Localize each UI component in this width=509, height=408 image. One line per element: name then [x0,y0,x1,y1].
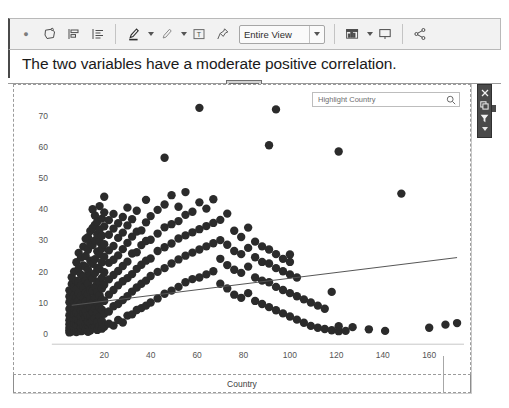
scatter-point[interactable] [251,237,259,245]
present-icon[interactable] [375,22,395,46]
pen-caret-icon[interactable] [181,32,187,36]
scatter-point[interactable] [251,253,259,261]
pen-icon[interactable] [156,22,176,46]
scatter-point[interactable] [146,254,154,262]
scatter-point[interactable] [167,259,175,267]
scatter-point[interactable] [109,242,117,250]
scatter-point[interactable] [441,320,449,328]
scatter-point[interactable] [397,189,405,197]
scatter-point[interactable] [195,104,203,112]
scatter-point[interactable] [381,327,389,335]
scatter-point[interactable] [146,272,154,280]
chart-caret-icon[interactable] [367,32,373,36]
scatter-point[interactable] [265,141,273,149]
scatter-point[interactable] [188,275,196,283]
chevron-down-icon[interactable] [482,127,488,131]
scatter-point[interactable] [244,289,252,297]
scatter-point[interactable] [174,203,182,211]
scatter-point[interactable] [167,239,175,247]
scatter-point[interactable] [100,193,108,201]
annotate-shape-icon[interactable] [40,22,60,46]
overflow-dot-icon[interactable]: ● [16,22,36,46]
scatter-points[interactable] [65,104,461,337]
align-text-icon[interactable] [88,22,108,46]
scatter-point[interactable] [146,298,154,306]
scatter-point[interactable] [244,223,252,231]
scatter-point[interactable] [119,213,127,221]
scatter-point[interactable] [133,207,141,215]
scatter-point[interactable] [348,323,356,331]
search-input[interactable] [313,92,443,107]
scatter-point[interactable] [453,319,461,327]
text-box-icon[interactable]: T [189,22,209,46]
scatter-point[interactable] [181,188,189,196]
scatter-point[interactable] [119,318,127,326]
scatter-point[interactable] [153,206,161,214]
scatter-point[interactable] [188,208,196,216]
close-icon[interactable] [478,86,491,99]
filter-funnel-icon[interactable] [478,112,491,125]
share-icon[interactable] [410,22,430,46]
view-scope-select[interactable]: Entire View [239,25,325,44]
scatter-point[interactable] [334,147,342,155]
scatter-point[interactable] [328,288,336,296]
highlight-country-search[interactable] [312,92,460,107]
scatter-point[interactable] [223,209,231,217]
search-icon[interactable] [443,95,459,105]
scatter-point[interactable] [334,322,342,330]
scatter-point[interactable] [244,244,252,252]
highlighter-caret-icon[interactable] [148,32,154,36]
scatter-point[interactable] [286,250,294,258]
scatter-point[interactable] [133,248,141,256]
scatter-point[interactable] [142,196,150,204]
scatter-point[interactable] [244,262,252,270]
align-left-icon[interactable] [64,22,84,46]
scatter-point[interactable] [258,258,266,266]
scatter-point[interactable] [265,259,273,267]
scatter-point[interactable] [272,105,280,113]
scatter-point[interactable] [265,278,273,286]
view-scope-caret-icon[interactable] [314,32,320,36]
scatter-point[interactable] [153,229,161,237]
scatter-point[interactable] [100,208,108,216]
scatter-point[interactable] [272,250,280,258]
scatter-point[interactable] [174,217,182,225]
scatter-point[interactable] [209,267,217,275]
highlighter-icon[interactable] [123,22,143,46]
scatter-point[interactable] [123,257,131,265]
scatter-point[interactable] [314,324,322,332]
scatter-point[interactable] [123,203,131,211]
scatter-point[interactable] [100,268,108,276]
scatter-point[interactable] [237,233,245,241]
scatter-point[interactable] [209,195,217,203]
scatter-point[interactable] [160,264,168,272]
scatter-point[interactable] [365,325,373,333]
scatter-point[interactable] [146,236,154,244]
scatter-point[interactable] [265,245,273,253]
scatter-point[interactable] [223,261,231,269]
scatter-point[interactable] [174,283,182,291]
scatter-point[interactable] [109,210,117,218]
scatter-point[interactable] [321,325,329,333]
scatter-point[interactable] [128,215,136,223]
scatter-point[interactable] [216,236,224,244]
scatter-point[interactable] [202,204,210,212]
duplicate-icon[interactable] [478,99,491,112]
scatter-point[interactable] [146,212,154,220]
scatter-point[interactable] [137,226,145,234]
pin-icon[interactable] [213,22,233,46]
scatter-point[interactable] [223,241,231,249]
chart-icon[interactable] [342,22,362,46]
scatter-point[interactable] [425,324,433,332]
scatter-point[interactable] [216,255,224,263]
scatter-point[interactable] [258,276,266,284]
scatter-point[interactable] [160,200,168,208]
scatter-point[interactable] [119,228,127,236]
scatter-point[interactable] [286,258,294,266]
scatter-point[interactable] [237,250,245,258]
scatter-point[interactable] [237,294,245,302]
scatter-point[interactable] [230,227,238,235]
scatter-point[interactable] [237,269,245,277]
scatter-point[interactable] [167,191,175,199]
scatter-point[interactable] [216,216,224,224]
